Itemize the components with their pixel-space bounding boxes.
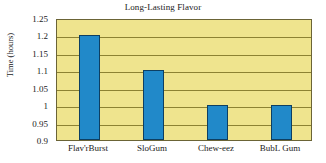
bar (143, 70, 164, 140)
y-tick-label: 1.05 (32, 84, 48, 94)
y-tick-label: 1.1 (37, 66, 48, 76)
bar-chart-figure: Long-Lasting Flavor Time (hours) 0.90.95… (0, 0, 326, 163)
y-tick-label: 1.2 (37, 31, 48, 41)
y-axis-tick-labels: 0.90.9511.051.11.151.21.25 (0, 19, 52, 141)
y-tick-label: 0.95 (32, 119, 48, 129)
x-tick-label: BubL Gum (260, 143, 300, 153)
bar (79, 35, 100, 140)
x-tick-label: SloGum (137, 143, 167, 153)
y-tick-label: 1.15 (32, 49, 48, 59)
y-tick-label: 1 (44, 101, 49, 111)
y-tick-label: 1.25 (32, 14, 48, 24)
x-axis-tick-labels: Flav'rBurstSloGumChew-eezBubL Gum (56, 143, 312, 159)
y-tick-label: 0.9 (37, 136, 48, 146)
x-tick-label: Chew-eez (198, 143, 234, 153)
bars-group (57, 20, 311, 140)
plot-area (56, 19, 312, 141)
chart-title: Long-Lasting Flavor (0, 2, 326, 12)
bar (207, 105, 228, 140)
x-tick-label: Flav'rBurst (68, 143, 108, 153)
bar (271, 105, 292, 140)
